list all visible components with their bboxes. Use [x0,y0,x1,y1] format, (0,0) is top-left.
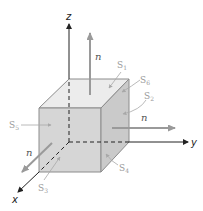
x-axis [18,172,39,192]
surface-label-s3: S3 [38,183,48,194]
surface-label-s1: S1 [117,60,127,71]
normal-label-right: n [141,112,147,123]
surface-label-s2: S2 [144,91,154,102]
normal-label-front: n [26,147,32,158]
surface-label-s4: S4 [119,163,129,174]
y-axis-label: y [190,137,198,148]
x-axis-label: x [11,194,18,205]
cube-diagram: z y x n n n S1 S6 S2 S5 S3 S4 [0,0,203,211]
surface-label-s6: S6 [140,75,150,86]
surface-label-s5: S5 [9,120,19,131]
normal-label-top: n [95,51,101,62]
z-axis-label: z [65,11,72,22]
